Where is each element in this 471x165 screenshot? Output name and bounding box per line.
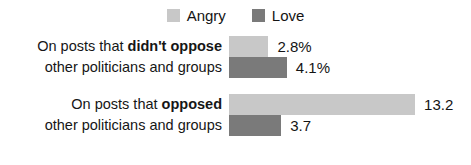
group-label-line-2: other politicians and groups: [0, 115, 222, 136]
bar-chart: Angry Love On posts that didn't oppose o…: [0, 0, 471, 165]
bar-love: [229, 57, 287, 78]
bar-row-angry: 2.8%: [229, 36, 471, 57]
legend-item-love: Love: [252, 8, 305, 23]
group-label-lead: On posts that: [37, 38, 127, 54]
group-label-line-1: On posts that opposed: [0, 94, 222, 115]
group-label-emphasis: opposed: [162, 96, 222, 112]
bar-angry: [229, 36, 268, 57]
group-label-opposed: On posts that opposed other politicians …: [0, 94, 222, 136]
chart-group-opposed: On posts that opposed other politicians …: [0, 94, 471, 136]
chart-legend: Angry Love: [0, 8, 471, 23]
group-label-line-1: On posts that didn't oppose: [0, 36, 222, 57]
legend-item-angry: Angry: [167, 8, 226, 23]
group-bars-opposed: 13.2 3.7: [229, 94, 471, 136]
bar-value-angry: 13.2: [424, 97, 453, 112]
legend-swatch-love: [252, 9, 265, 22]
group-bars-didnt-oppose: 2.8% 4.1%: [229, 36, 471, 78]
group-label-didnt-oppose: On posts that didn't oppose other politi…: [0, 36, 222, 78]
bar-row-angry: 13.2: [229, 94, 471, 115]
legend-label-love: Love: [272, 8, 305, 23]
chart-group-didnt-oppose: On posts that didn't oppose other politi…: [0, 36, 471, 78]
bar-value-love: 4.1%: [296, 60, 330, 75]
bar-value-angry: 2.8%: [277, 39, 311, 54]
chart-plot-area: On posts that didn't oppose other politi…: [0, 36, 471, 136]
group-label-emphasis: didn't oppose: [128, 38, 222, 54]
bar-love: [229, 115, 281, 136]
legend-swatch-angry: [167, 9, 180, 22]
bar-row-love: 3.7: [229, 115, 471, 136]
legend-label-angry: Angry: [187, 8, 226, 23]
group-label-line-2: other politicians and groups: [0, 57, 222, 78]
bar-value-love: 3.7: [290, 118, 311, 133]
group-label-lead: On posts that: [71, 96, 161, 112]
bar-angry: [229, 94, 415, 115]
bar-row-love: 4.1%: [229, 57, 471, 78]
